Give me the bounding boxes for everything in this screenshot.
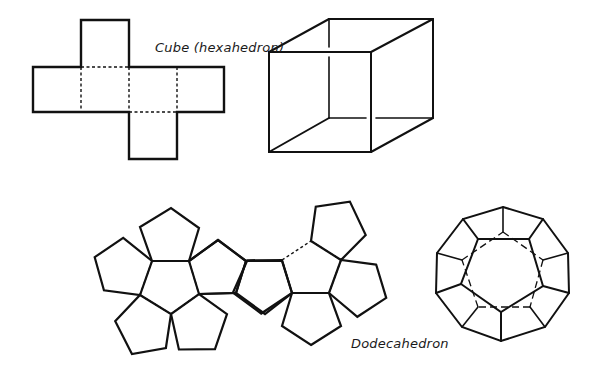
edge bbox=[463, 219, 478, 239]
net-face bbox=[329, 260, 386, 317]
cube-edge bbox=[269, 118, 329, 152]
net-face bbox=[140, 208, 199, 261]
polyhedra-diagram bbox=[0, 0, 594, 365]
hidden-edge bbox=[462, 232, 503, 260]
dodecahedron-net bbox=[95, 202, 387, 354]
edge bbox=[529, 219, 543, 239]
net-face bbox=[311, 202, 366, 260]
cube-label: Cube (hexahedron) bbox=[155, 40, 284, 55]
dodecahedron-3d-drawing bbox=[436, 207, 569, 341]
cube-edge bbox=[371, 118, 433, 152]
cube-3d-drawing bbox=[269, 19, 433, 152]
cube-edge bbox=[371, 19, 433, 52]
net-face bbox=[115, 295, 171, 354]
edge bbox=[543, 253, 568, 260]
hidden-edge bbox=[503, 232, 543, 260]
net-face bbox=[95, 238, 152, 295]
edge bbox=[436, 284, 461, 293]
edge bbox=[199, 293, 236, 294]
edge bbox=[543, 286, 569, 293]
edge bbox=[530, 307, 545, 327]
dodecahedron-label: Dodecahedron bbox=[351, 336, 449, 351]
fold-line bbox=[282, 241, 311, 260]
edge bbox=[437, 253, 462, 260]
edge bbox=[218, 240, 246, 261]
front-pentagon bbox=[461, 239, 543, 312]
hidden-edge bbox=[462, 260, 478, 307]
net-face bbox=[282, 293, 341, 345]
net-face bbox=[171, 294, 227, 349]
edge bbox=[462, 307, 478, 327]
